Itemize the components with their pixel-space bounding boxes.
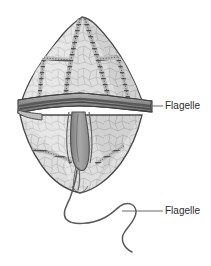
label-transverse-flagelle: Flagelle <box>151 100 200 111</box>
label-text-longitudinal: Flagelle <box>165 205 200 216</box>
sulcus-body <box>71 112 90 171</box>
epitheca <box>21 17 143 103</box>
dinoflagellate-diagram: Flagelle Flagelle <box>0 0 211 266</box>
figure-canvas: Flagelle Flagelle <box>0 0 211 266</box>
label-text-transverse: Flagelle <box>165 100 200 111</box>
